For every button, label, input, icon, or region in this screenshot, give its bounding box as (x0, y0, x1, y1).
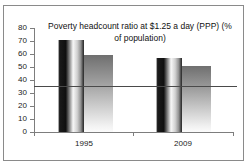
y-tick-label-60: 60 (18, 49, 27, 58)
bar-2009-series-2[interactable] (182, 66, 211, 132)
chart-frame: Poverty headcount ratio at $1.25 a day (… (3, 5, 244, 161)
y-tick-label-10: 10 (18, 114, 27, 123)
y-tick-label-20: 20 (18, 101, 27, 110)
bar-1995-series-2[interactable] (84, 55, 113, 132)
x-axis-label-1995: 1995 (59, 139, 109, 149)
bar-2009-series-1[interactable] (156, 58, 182, 132)
x-tick-mid (133, 132, 134, 136)
y-tick-label-80: 80 (18, 23, 27, 32)
x-tick-end (233, 132, 234, 136)
reference-line (34, 86, 237, 87)
plot-area (35, 28, 233, 132)
x-axis-line (34, 132, 234, 133)
x-tick-start (34, 132, 35, 136)
y-tick-label-70: 70 (18, 36, 27, 45)
x-axis-label-2009: 2009 (158, 139, 208, 149)
y-tick-label-30: 30 (18, 88, 27, 97)
y-tick-label-40: 40 (18, 75, 27, 84)
y-tick-label-0: 0 (23, 127, 27, 136)
y-tick-label-50: 50 (18, 62, 27, 71)
